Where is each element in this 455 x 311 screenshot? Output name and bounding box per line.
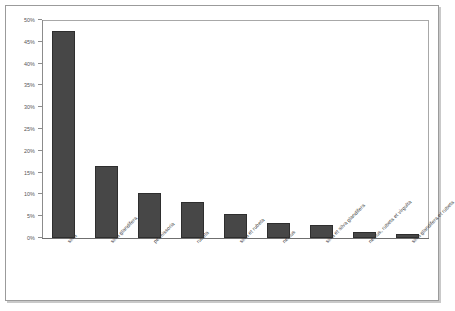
y-axis-tick-label: 25% (24, 124, 35, 134)
y-axis-tick: 30% (0, 102, 42, 112)
y-axis-tick: 20% (0, 146, 42, 156)
y-axis-tick: 0% (0, 233, 42, 243)
y-axis-tick: 5% (0, 211, 42, 221)
y-axis-tick: 10% (0, 189, 42, 199)
y-axis-tick-label: 15% (24, 168, 35, 178)
y-axis-tick: 45% (0, 37, 42, 47)
x-axis-labels: silvasilva glandiferapermissoriarubetasi… (42, 240, 429, 310)
y-axis-tick-label: 50% (24, 15, 35, 25)
y-axis-tick-label: 30% (24, 102, 35, 112)
y-axis-tick: 50% (0, 15, 42, 25)
bar[interactable] (95, 166, 118, 238)
y-axis-tick: 25% (0, 124, 42, 134)
y-axis-tick-label: 35% (24, 80, 35, 90)
y-axis-tick: 15% (0, 168, 42, 178)
y-axis-tick-label: 20% (24, 146, 35, 156)
y-axis-tick-label: 40% (24, 59, 35, 69)
y-axis-tick-label: 10% (24, 189, 35, 199)
y-axis-tick-label: 0% (27, 233, 35, 243)
bar[interactable] (138, 193, 161, 238)
y-axis-tick-label: 5% (27, 211, 35, 221)
y-axis-tick: 35% (0, 80, 42, 90)
y-axis-tick: 40% (0, 59, 42, 69)
y-axis-tick-label: 45% (24, 37, 35, 47)
bar[interactable] (52, 31, 75, 238)
bars-layer (42, 20, 429, 238)
